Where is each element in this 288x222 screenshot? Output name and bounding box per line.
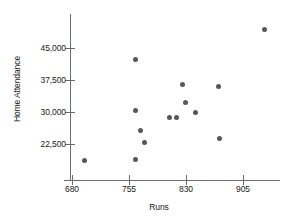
y-tick-mark (65, 144, 75, 145)
data-point (174, 115, 179, 120)
data-point (138, 128, 143, 133)
data-point (183, 100, 188, 105)
data-point (167, 115, 172, 120)
x-axis-line (64, 180, 280, 181)
x-tick-label: 680 (52, 185, 92, 194)
y-tick-label: 30,000 (22, 108, 66, 117)
y-tick-label: 45,000 (22, 44, 66, 53)
data-point (142, 140, 147, 145)
y-axis-line (70, 14, 71, 180)
data-point (82, 158, 87, 163)
y-tick-mark (65, 112, 75, 113)
data-point (133, 157, 138, 162)
x-tick-label: 755 (109, 185, 149, 194)
y-tick-mark (65, 80, 75, 81)
y-tick-mark (65, 48, 75, 49)
x-axis-title: Runs (104, 202, 214, 212)
data-point (193, 110, 198, 115)
data-point (262, 27, 267, 32)
data-point (180, 82, 185, 87)
y-axis-title: Home Attendance (12, 34, 22, 144)
x-tick-label: 905 (223, 185, 263, 194)
data-point (133, 108, 138, 113)
data-point (216, 84, 221, 89)
y-tick-label: 22,500 (22, 140, 66, 149)
y-tick-label: 37,500 (22, 76, 66, 85)
data-point (217, 136, 222, 141)
scatter-chart: 22,50030,00037,50045,000 680755830905 Ho… (0, 0, 288, 222)
x-tick-label: 830 (166, 185, 206, 194)
data-point (133, 57, 138, 62)
